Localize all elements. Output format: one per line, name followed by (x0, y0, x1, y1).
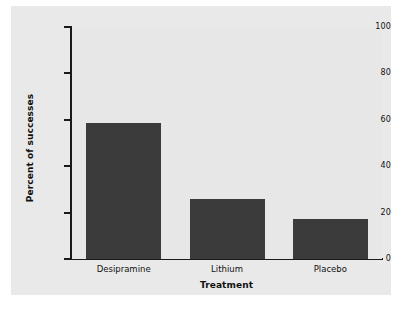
x-tick-label: Lithium (175, 264, 278, 274)
bar-desipramine (86, 123, 161, 259)
y-tick-label: 60 (345, 116, 391, 124)
bar-placebo (293, 219, 368, 259)
y-tick-mark (64, 165, 71, 167)
plot-area (72, 27, 382, 259)
y-tick-label: 80 (345, 69, 391, 77)
x-tick-label: Desipramine (72, 264, 175, 274)
y-tick-label: 100 (345, 23, 391, 31)
y-tick-mark (64, 72, 71, 74)
x-tick-label: Placebo (279, 264, 382, 274)
x-axis-title: Treatment (70, 280, 383, 290)
y-tick-label: 0 (345, 255, 391, 263)
y-tick-mark (64, 212, 71, 214)
y-axis-title: Percent of successes (25, 82, 35, 214)
y-tick-mark (64, 26, 71, 28)
y-tick-mark (64, 119, 71, 121)
bar-lithium (190, 199, 265, 259)
y-tick-label: 40 (345, 162, 391, 170)
y-tick-mark (64, 258, 71, 260)
figure-canvas: Percent of successes 020406080100 Desipr… (11, 6, 391, 295)
y-tick-label: 20 (345, 209, 391, 217)
